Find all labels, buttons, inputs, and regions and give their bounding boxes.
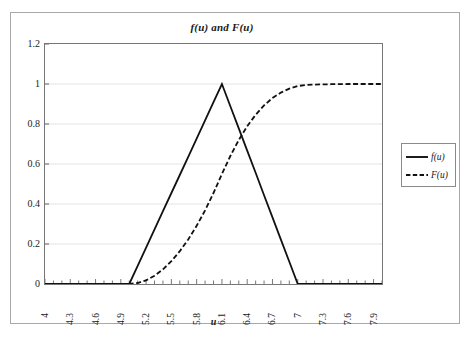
- x-tick-label: 6.1: [222, 301, 232, 313]
- x-tick-label: 7.9: [374, 301, 384, 313]
- chart-screenshot: f(u) and F(u) 00.20.40.60.811.2 44.34.64…: [0, 0, 472, 339]
- dashed-line-icon: [405, 170, 429, 180]
- y-tick-label: 1.2: [4, 39, 40, 49]
- x-tick-label: 5.8: [197, 301, 207, 313]
- y-tick-label: 1: [4, 79, 40, 89]
- x-tick-label: 5.5: [171, 301, 181, 313]
- series-line-F: [45, 84, 382, 284]
- y-tick-label: 0.6: [4, 159, 40, 169]
- plot-area: [44, 43, 383, 285]
- x-tick-label: 7.6: [348, 301, 358, 313]
- x-tick-label: 7: [298, 308, 308, 313]
- y-axis-ticks: [45, 44, 49, 284]
- x-axis-tick-labels: 44.34.64.95.25.55.86.16.46.777.37.67.9: [44, 287, 383, 317]
- x-axis-title: u: [44, 316, 383, 327]
- y-tick-label: 0.8: [4, 119, 40, 129]
- x-tick-label: 4.3: [70, 301, 80, 313]
- x-tick-label: 4: [45, 308, 55, 313]
- x-tick-label: 6.4: [247, 301, 257, 313]
- x-tick-label: 4.6: [96, 301, 106, 313]
- legend-label-f: f(u): [431, 152, 445, 162]
- plot-canvas: [45, 44, 382, 284]
- legend-item-F: F(u): [402, 166, 455, 184]
- y-tick-label: 0.4: [4, 199, 40, 209]
- y-axis-tick-labels: 00.20.40.60.811.2: [2, 43, 40, 285]
- gridlines: [45, 84, 382, 244]
- y-tick-label: 0.2: [4, 239, 40, 249]
- x-tick-label: 6.7: [272, 301, 282, 313]
- solid-line-icon: [405, 152, 429, 162]
- x-tick-label: 7.3: [323, 301, 333, 313]
- legend-item-f: f(u): [402, 148, 455, 166]
- x-tick-label: 4.9: [121, 301, 131, 313]
- x-tick-label: 5.2: [146, 301, 156, 313]
- y-tick-label: 0: [4, 279, 40, 289]
- chart-title: f(u) and F(u): [60, 21, 384, 33]
- legend-label-F: F(u): [431, 170, 448, 180]
- series-line-f: [45, 84, 382, 284]
- legend: f(u) F(u): [401, 143, 456, 187]
